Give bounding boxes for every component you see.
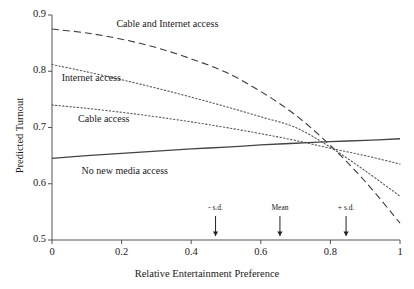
y-tick-label: 0.8: [22, 64, 46, 75]
series-line-no-new-media-access: [52, 139, 400, 159]
x-tick-label: 0.2: [102, 246, 142, 257]
series-label: No new media access: [82, 165, 168, 176]
series-line-internet-access: [52, 65, 400, 197]
series-label: Cable access: [78, 113, 129, 124]
x-tick-label: 0: [32, 246, 72, 257]
marker-arrow-head: [343, 232, 348, 237]
x-tick-label: 1: [380, 246, 414, 257]
marker-arrow-head: [277, 232, 282, 237]
y-tick-label: 0.7: [22, 121, 46, 132]
series-label: Internet access: [62, 72, 121, 83]
y-tick-label: 0.5: [22, 233, 46, 244]
marker-label: Mean: [255, 203, 305, 212]
x-tick-label: 0.8: [310, 246, 350, 257]
marker-label: - s.d.: [191, 203, 241, 212]
y-tick-label: 0.6: [22, 177, 46, 188]
x-tick-label: 0.4: [171, 246, 211, 257]
series-label: Cable and Internet access: [116, 18, 218, 29]
series-line-cable-and-internet-access: [52, 29, 400, 223]
marker-arrow-head: [213, 232, 218, 237]
chart-figure: Predicted Turnout Relative Entertainment…: [0, 0, 414, 289]
marker-label: + s.d.: [321, 203, 371, 212]
y-tick-label: 0.9: [22, 8, 46, 19]
x-tick-label: 0.6: [241, 246, 281, 257]
x-axis-title: Relative Entertainment Preference: [0, 268, 414, 279]
